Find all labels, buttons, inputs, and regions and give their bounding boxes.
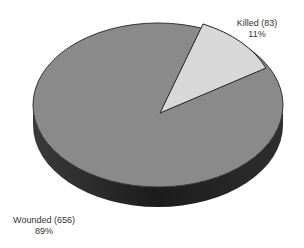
label-killed-pct: 11% [222,29,292,40]
label-killed-name: Killed (83) [222,18,292,29]
label-wounded: Wounded (656) 89% [4,215,84,237]
label-wounded-pct: 89% [4,226,84,237]
label-wounded-name: Wounded (656) [4,215,84,226]
label-killed: Killed (83) 11% [222,18,292,40]
